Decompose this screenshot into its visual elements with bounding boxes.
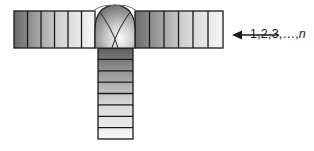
weld-bead-dome — [92, 2, 138, 48]
t-joint-weld-diagram — [0, 0, 314, 151]
segment-numbering-prefix: 1,2,3,…, — [250, 27, 299, 41]
horizontal-plate-left — [14, 11, 95, 48]
segment-count-symbol: n — [299, 27, 306, 41]
figure-canvas: 1,2,3,…,n — [0, 0, 314, 151]
segment-numbering-label: 1,2,3,…,n — [250, 28, 306, 41]
vertical-plate — [98, 48, 133, 139]
horizontal-plate-right — [135, 11, 223, 48]
